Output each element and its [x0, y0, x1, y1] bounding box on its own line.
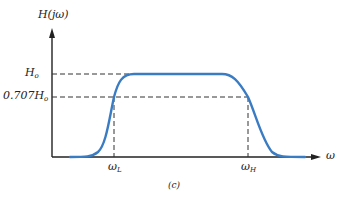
x-axis-arrow-icon: [311, 154, 321, 160]
half-power-label: 0.707Ho: [3, 89, 48, 103]
y-axis-arrow-icon: [49, 28, 55, 38]
ho-label: Ho: [25, 66, 39, 80]
y-axis-label: H(jω): [38, 8, 69, 21]
x-axis-label: ω: [326, 149, 335, 162]
omega-h-label: ωH: [241, 160, 256, 174]
caption: (c): [168, 180, 180, 190]
bandpass-response-plot: [0, 0, 347, 199]
response-curve: [70, 74, 305, 157]
omega-l-label: ωL: [108, 160, 122, 174]
